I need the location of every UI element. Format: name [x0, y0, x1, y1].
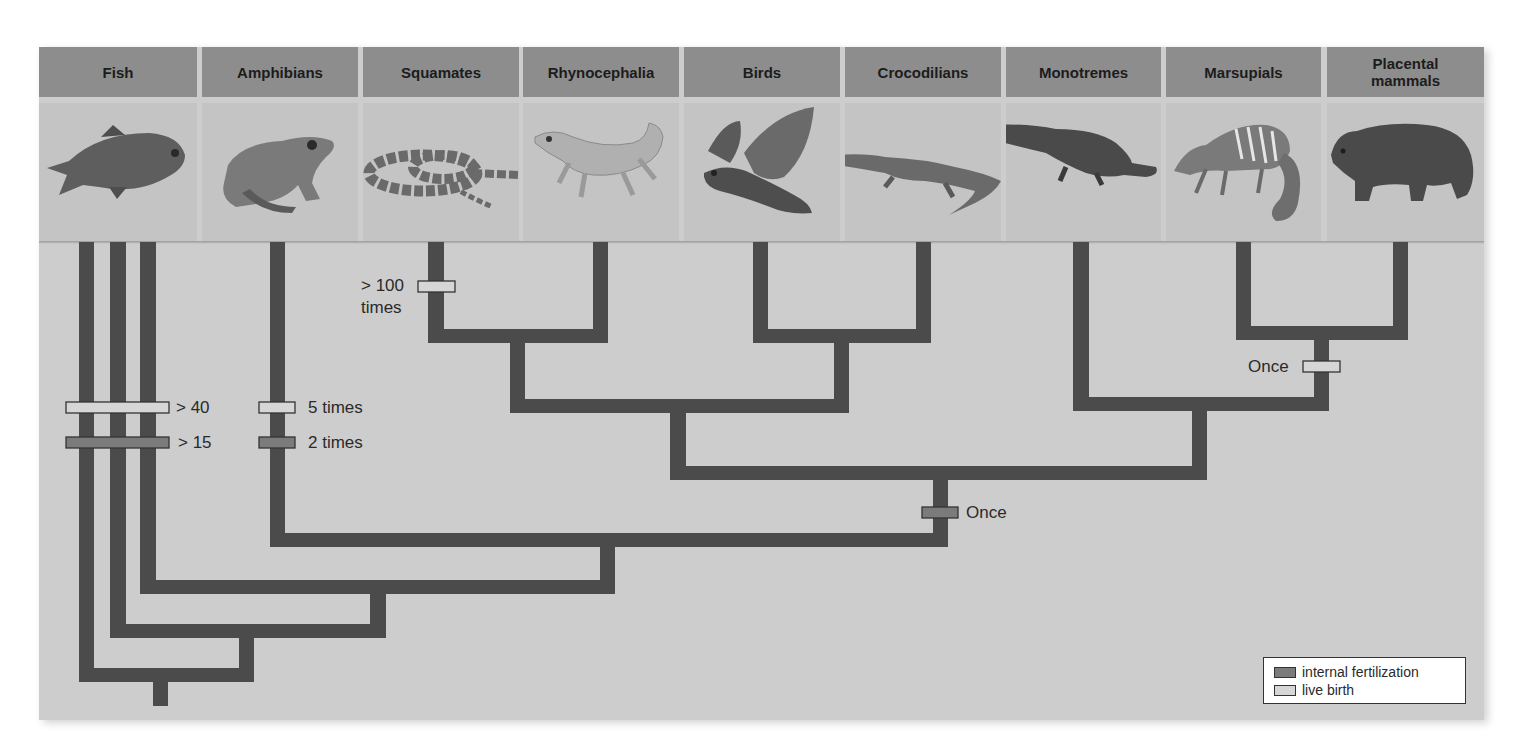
marker-amphibian-live-birth	[259, 402, 295, 413]
marker-squamate-live-birth	[418, 281, 455, 292]
label-fish-internal-fertilization: > 15	[178, 433, 212, 452]
label-amniote-internal-fertilization: Once	[966, 503, 1007, 522]
label-squamate-live-birth-count: > 100	[361, 276, 404, 295]
legend-item-live-birth: live birth	[1274, 682, 1354, 698]
legend-label: live birth	[1302, 682, 1354, 698]
legend: internal fertilization live birth	[1263, 657, 1466, 704]
legend-swatch-live-birth	[1274, 685, 1296, 696]
marker-fish-live-birth	[66, 402, 169, 413]
marker-therian-live-birth	[1303, 361, 1340, 372]
marker-fish-internal-fertilization	[66, 437, 169, 448]
label-therian-live-birth: Once	[1248, 357, 1289, 376]
label-amphibian-live-birth: 5 times	[308, 398, 363, 417]
cladogram-branches	[0, 0, 1521, 747]
label-squamate-live-birth-unit: times	[361, 298, 402, 317]
legend-swatch-internal-fertilization	[1274, 667, 1296, 678]
label-fish-live-birth: > 40	[176, 398, 210, 417]
legend-label: internal fertilization	[1302, 664, 1419, 680]
marker-amphibian-internal-fertilization	[259, 437, 295, 448]
marker-amniote-internal-fertilization	[922, 507, 958, 518]
legend-item-internal-fertilization: internal fertilization	[1274, 664, 1419, 680]
label-amphibian-internal-fertilization: 2 times	[308, 433, 363, 452]
